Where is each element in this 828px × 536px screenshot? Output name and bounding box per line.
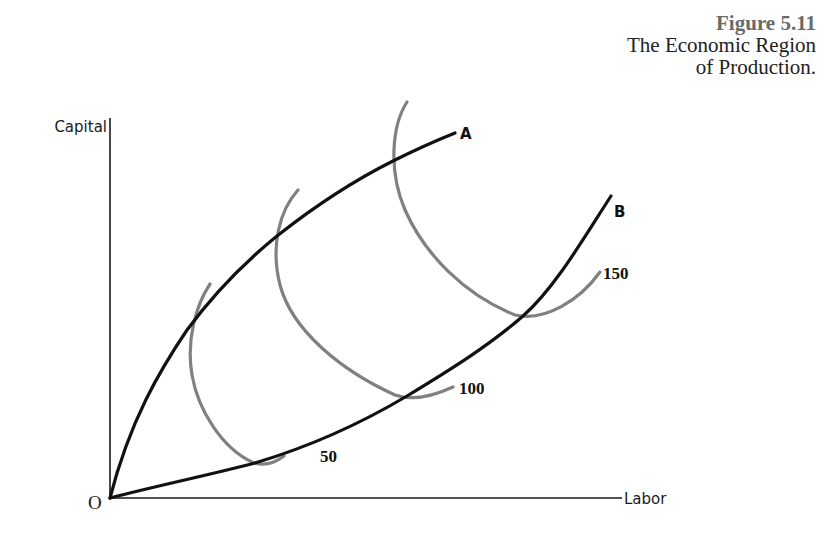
isoquant-label-100: 100 (459, 379, 485, 398)
isoquant-label-150: 150 (603, 264, 629, 283)
y-axis-label: Capital (54, 118, 107, 136)
ridge-line-a (110, 133, 455, 498)
chart-canvas: Capital Labor O A B 50 100 150 (0, 0, 828, 536)
isoquant-100 (276, 190, 453, 398)
isoquant-150 (394, 102, 600, 316)
isoquant-label-50: 50 (320, 447, 337, 466)
origin-label: O (88, 492, 102, 513)
ridge-line-b (110, 196, 611, 498)
isoquant-50 (190, 284, 284, 464)
ridge-label-b: B (614, 203, 625, 221)
x-axis-label: Labor (624, 490, 667, 508)
ridge-label-a: A (460, 125, 472, 143)
